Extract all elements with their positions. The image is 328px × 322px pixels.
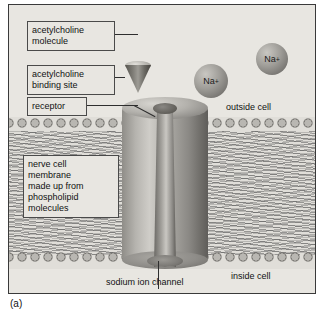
- sodium-ion-2-charge: +: [276, 56, 280, 63]
- channel-pore: [154, 109, 176, 267]
- leader-line-receptor: [82, 105, 138, 106]
- sodium-ion-1-label: Na: [203, 76, 215, 86]
- label-membrane-composition: nerve cell membrane made up from phospho…: [23, 155, 119, 218]
- label-sodium-ion-channel: sodium ion channel: [106, 277, 184, 288]
- label-outside-cell: outside cell: [226, 102, 271, 113]
- diagram-figure: Na+ Na+ acetylcholine molecule acetylcho…: [8, 4, 316, 294]
- sodium-ion-2: Na+: [256, 43, 288, 75]
- sodium-ion-1: Na+: [194, 64, 228, 98]
- figure-caption: (a): [10, 298, 22, 309]
- label-acetylcholine-molecule: acetylcholine molecule: [27, 21, 115, 51]
- leader-line-acetylcholine-molecule: [112, 34, 138, 35]
- channel-pore-opening: [153, 103, 177, 114]
- label-inside-cell: inside cell: [231, 271, 271, 282]
- acetylcholine-cone-body: [125, 65, 151, 93]
- sodium-ion-1-charge: +: [215, 78, 219, 85]
- sodium-ion-2-label: Na: [264, 54, 276, 64]
- acetylcholine-molecule-shape: [125, 61, 151, 93]
- leader-line-sodium-ion-channel-2: [158, 261, 159, 277]
- label-acetylcholine-binding-site: acetylcholine binding site: [27, 65, 115, 95]
- channel-pore-base: [147, 255, 183, 267]
- label-receptor: receptor: [27, 97, 87, 116]
- sodium-ion-channel-protein: [122, 97, 208, 269]
